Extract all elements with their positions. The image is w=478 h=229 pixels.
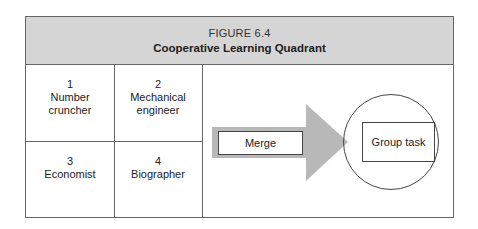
merge-label: Merge [245,137,276,149]
figure-number: FIGURE 6.4 [26,27,453,39]
quadrant-role-cont: engineer [114,104,202,117]
quadrant-cell-1: 1 Number cruncher [26,78,114,117]
quadrant-role: Number [26,91,114,104]
merge-box: Merge [218,131,303,155]
quadrant-number: 1 [26,78,114,91]
cooperative-learning-figure: FIGURE 6.4 Cooperative Learning Quadrant… [25,16,454,218]
quadrant-divider-horizontal [26,141,203,142]
group-task-box: Group task [362,122,435,162]
figure-title: Cooperative Learning Quadrant [26,42,453,54]
quadrant-role: Biographer [114,168,202,181]
quadrant-number: 3 [26,155,114,168]
quadrant-role: Mechanical [114,91,202,104]
quadrant-number: 2 [114,78,202,91]
quadrant-cell-4: 4 Biographer [114,155,202,181]
quadrant-cell-2: 2 Mechanical engineer [114,78,202,117]
group-task-label: Group task [372,136,426,148]
figure-header: FIGURE 6.4 Cooperative Learning Quadrant [26,17,453,65]
quadrant-number: 4 [114,155,202,168]
quadrant-role: Economist [26,168,114,181]
quadrant-role-cont: cruncher [26,104,114,117]
quadrant-cell-3: 3 Economist [26,155,114,181]
